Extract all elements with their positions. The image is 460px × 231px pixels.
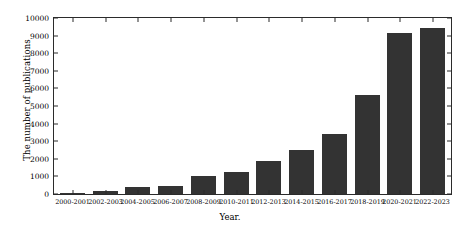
y-tick-mark [447, 158, 451, 159]
y-tick-mark [447, 53, 451, 54]
y-tick-mark [54, 53, 58, 54]
x-tick-mark [236, 18, 237, 22]
y-tick-mark [447, 123, 451, 124]
y-tick-label-8000: 8000 [30, 49, 54, 58]
y-tick-mark [447, 70, 451, 71]
y-tick-label-4000: 4000 [30, 119, 54, 128]
x-tick-label-2000-2001: 2000-2001 [55, 198, 90, 206]
x-tick-label-2016-2017: 2016-2017 [317, 198, 352, 206]
y-tick-label-2000: 2000 [30, 154, 54, 163]
y-tick-label-3000: 3000 [30, 137, 54, 146]
x-tick-label-2004-2005: 2004-2005 [120, 198, 155, 206]
y-tick-label-6000: 6000 [30, 84, 54, 93]
x-tick-mark [334, 18, 335, 22]
x-tick-mark [236, 190, 237, 194]
x-tick-mark [72, 18, 73, 22]
y-tick-mark [54, 158, 58, 159]
y-tick-mark [447, 194, 451, 195]
x-tick-mark [268, 190, 269, 194]
x-tick-label-2002-2003: 2002-2003 [88, 198, 123, 206]
x-tick-label-2010-2011: 2010-2011 [219, 198, 254, 206]
x-tick-mark [137, 190, 138, 194]
x-tick-label-2018-2019: 2018-2019 [350, 198, 385, 206]
x-tick-mark [170, 190, 171, 194]
bar-2016-2017 [322, 134, 347, 194]
y-tick-mark [54, 70, 58, 71]
plot-area: 0100020003000400050006000700080009000100… [53, 17, 452, 195]
y-tick-label-5000: 5000 [30, 102, 54, 111]
bar-2014-2015 [289, 150, 314, 194]
x-tick-mark [203, 190, 204, 194]
x-tick-mark [301, 18, 302, 22]
x-tick-mark [268, 18, 269, 22]
y-tick-mark [54, 88, 58, 89]
y-tick-mark [447, 176, 451, 177]
x-tick-mark [334, 190, 335, 194]
x-tick-mark [203, 18, 204, 22]
x-axis-title: Year. [0, 212, 460, 222]
y-tick-mark [447, 88, 451, 89]
x-tick-label-2022-2023: 2022-2023 [415, 198, 450, 206]
x-tick-mark [432, 18, 433, 22]
y-tick-label-10000: 10000 [25, 14, 54, 23]
x-tick-mark [105, 190, 106, 194]
bar-series [54, 18, 451, 194]
y-tick-mark [447, 141, 451, 142]
x-tick-mark [367, 190, 368, 194]
y-tick-label-7000: 7000 [30, 66, 54, 75]
y-tick-mark [447, 106, 451, 107]
y-tick-label-9000: 9000 [30, 31, 54, 40]
y-tick-mark [54, 176, 58, 177]
y-tick-mark [54, 35, 58, 36]
y-tick-label-0: 0 [44, 190, 54, 199]
x-tick-mark [170, 18, 171, 22]
x-tick-label-2020-2021: 2020-2021 [382, 198, 417, 206]
bar-2018-2019 [355, 95, 380, 194]
y-tick-mark [447, 35, 451, 36]
y-tick-mark [54, 194, 58, 195]
x-tick-mark [72, 190, 73, 194]
y-tick-mark [447, 18, 451, 19]
y-tick-mark [54, 123, 58, 124]
x-tick-mark [432, 190, 433, 194]
y-tick-mark [54, 141, 58, 142]
x-tick-label-2008-2009: 2008-2009 [186, 198, 221, 206]
y-tick-mark [54, 18, 58, 19]
y-tick-mark [54, 106, 58, 107]
x-tick-label-2012-2013: 2012-2013 [251, 198, 286, 206]
x-tick-mark [367, 18, 368, 22]
x-tick-mark [137, 18, 138, 22]
bar-2020-2021 [387, 33, 412, 194]
x-tick-mark [105, 18, 106, 22]
x-tick-label-2006-2007: 2006-2007 [153, 198, 188, 206]
bar-2022-2023 [420, 28, 445, 194]
y-tick-label-1000: 1000 [30, 172, 54, 181]
bar-chart-figure: The number of publications 0100020003000… [0, 0, 460, 231]
bar-2012-2013 [256, 161, 281, 194]
x-tick-mark [301, 190, 302, 194]
x-tick-mark [399, 190, 400, 194]
x-tick-label-2014-2015: 2014-2015 [284, 198, 319, 206]
x-tick-mark [399, 18, 400, 22]
